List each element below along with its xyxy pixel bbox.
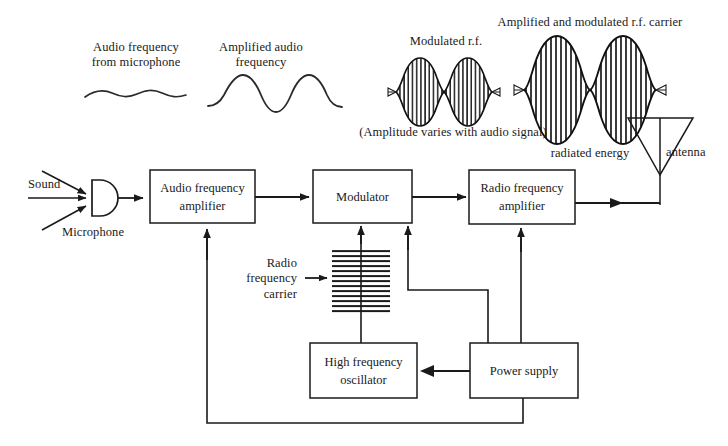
- caption-amplified-audio-frequency: Amplified audio frequency: [219, 40, 303, 71]
- block-label-audio-frequency-amplifier: Audio frequency amplifier: [160, 178, 244, 214]
- waveform-amplified-audio: [208, 75, 342, 112]
- label-sound-input: Sound: [28, 177, 60, 192]
- microphone-symbol: [92, 180, 143, 216]
- signal-path-rfa-to-antenna: [575, 198, 660, 208]
- caption-amplified-and-modulated-rf-carrier: Amplified and modulated r.f. carrier: [498, 15, 683, 30]
- power-feed-to-high-frequency-oscillator: [420, 365, 470, 377]
- caption-modulated-rf: Modulated r.f.: [410, 34, 483, 49]
- power-feed-to-modulator: [408, 226, 488, 343]
- label-antenna: antenna: [666, 145, 706, 160]
- rf-carrier-hatch-block: [305, 248, 390, 314]
- label-radio-frequency-carrier: Radio frequency carrier: [246, 256, 297, 302]
- block-label-power-supply: Power supply: [490, 361, 558, 379]
- caption-amplitude-varies-note: (Amplitude varies with audio signal): [359, 125, 547, 140]
- waveform-modulated-rf: [388, 50, 504, 134]
- caption-radiated-energy: radiated energy: [551, 146, 630, 161]
- label-microphone: Microphone: [62, 225, 124, 240]
- diagram-canvas: Audio frequency from microphone Amplifie…: [0, 0, 728, 446]
- waveform-audio-from-microphone: [85, 90, 186, 97]
- caption-audio-from-microphone: Audio frequency from microphone: [92, 40, 181, 71]
- block-label-radio-frequency-amplifier: Radio frequency amplifier: [481, 179, 564, 215]
- block-label-modulator: Modulator: [336, 187, 389, 205]
- block-label-high-frequency-oscillator: High frequency oscillator: [324, 352, 402, 388]
